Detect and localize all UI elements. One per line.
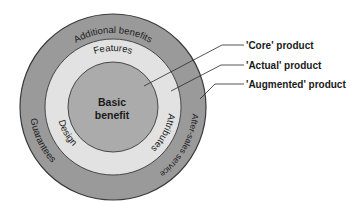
core-product-callout: 'Core' product bbox=[246, 40, 314, 51]
augmented-leader-line bbox=[200, 84, 244, 99]
augmented-product-callout: 'Augmented' product bbox=[246, 79, 346, 90]
basic-benefit-line2: benefit bbox=[95, 109, 130, 121]
product-levels-diagram: Additional benefits Guarantees After-sal… bbox=[0, 0, 353, 202]
basic-benefit-line1: Basic bbox=[98, 96, 126, 108]
actual-product-callout: 'Actual' product bbox=[246, 60, 322, 71]
